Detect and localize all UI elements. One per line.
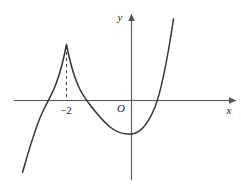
- cubic-curve-path: [23, 19, 174, 173]
- y-axis-label: y: [117, 11, 123, 23]
- graph-canvas: y x O −2: [0, 0, 241, 189]
- x-tick-label-minus-two: −2: [60, 104, 72, 116]
- x-axis-label: x: [226, 104, 232, 116]
- origin-label: O: [117, 102, 125, 114]
- x-axis-arrow-icon: [229, 97, 237, 103]
- cubic-graph-figure: y x O −2: [0, 0, 241, 189]
- y-axis-arrow-icon: [128, 14, 134, 22]
